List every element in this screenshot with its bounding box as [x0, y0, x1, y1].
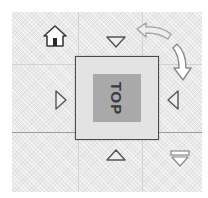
pan-down-button[interactable]: [105, 148, 127, 162]
rotate-counterclockwise-arrow-icon: [135, 22, 173, 42]
rotate-clockwise-arrow-icon: [172, 42, 194, 82]
triangle-down-icon: [105, 35, 127, 49]
face-label: TOP: [108, 81, 125, 115]
home-button[interactable]: [43, 25, 67, 47]
viewcube-top-face[interactable]: TOP: [93, 74, 141, 122]
viewcube[interactable]: TOP: [75, 56, 159, 140]
viewcube-menu-button[interactable]: [170, 150, 190, 168]
pan-left-button[interactable]: [54, 89, 68, 111]
triangle-left-icon: [166, 89, 180, 111]
pan-right-button[interactable]: [166, 89, 180, 111]
dropdown-menu-icon: [170, 150, 190, 168]
pan-up-button[interactable]: [105, 35, 127, 49]
triangle-up-icon: [105, 148, 127, 162]
home-icon: [43, 25, 67, 47]
rotate-right-button[interactable]: [172, 42, 194, 82]
rotate-left-button[interactable]: [135, 22, 173, 42]
triangle-right-icon: [54, 89, 68, 111]
